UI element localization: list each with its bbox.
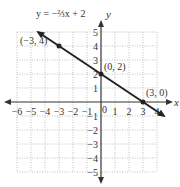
y-tick-label: 4	[93, 41, 98, 52]
point-label: (−3, 4)	[20, 35, 47, 47]
point-label: (0, 2)	[104, 61, 126, 73]
point-label: (3, 0)	[146, 87, 168, 99]
y-tick-label: 1	[93, 83, 98, 94]
x-tick-label: 2	[127, 106, 132, 117]
y-tick-label: 5	[93, 27, 98, 38]
x-tick-label: −4	[40, 106, 51, 117]
x-axis-arrow-right-icon	[166, 99, 173, 105]
x-tick-label: −6	[12, 106, 23, 117]
y-axis-label: y	[105, 8, 111, 20]
data-point	[141, 100, 146, 105]
y-tick-label: −1	[87, 111, 98, 122]
x-axis-label: x	[173, 96, 179, 108]
data-point	[57, 44, 62, 49]
y-tick-label: −4	[87, 153, 98, 164]
equation-label: y = −⅔x + 2	[36, 8, 85, 19]
x-tick-label: 1	[113, 106, 118, 117]
origin-label: 0	[102, 104, 107, 115]
data-point	[99, 72, 104, 77]
y-tick-label: −5	[87, 167, 98, 178]
linear-function-graph: xy −6−5−4−3−2−1123454321−1−2−3−4−50 (−3,…	[0, 0, 180, 187]
y-tick-label: −3	[87, 139, 98, 150]
x-tick-label: −3	[54, 106, 65, 117]
y-tick-label: −2	[87, 125, 98, 136]
x-tick-label: 3	[141, 106, 146, 117]
x-axis-arrow-left-icon	[4, 99, 11, 105]
y-axis-arrow-up-icon	[98, 20, 104, 27]
y-tick-label: 3	[93, 55, 98, 66]
x-tick-label: −2	[68, 106, 79, 117]
x-tick-label: −5	[26, 106, 37, 117]
y-axis-arrow-down-icon	[98, 177, 104, 184]
